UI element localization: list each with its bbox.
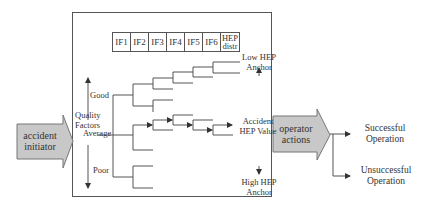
accident-initiator-line2: initiator: [17, 141, 63, 152]
failure-line2: Operation: [350, 176, 422, 187]
high-hep-anchor-label: High HEP Anchor: [238, 178, 280, 197]
hep-distr-cell: HEP distr: [220, 32, 240, 52]
if-cell-2: IF2: [130, 32, 149, 52]
operator-actions-label: operator actions: [274, 123, 318, 145]
operator-actions-line2: actions: [274, 134, 318, 145]
success-line1: Successful: [352, 123, 418, 134]
if-cell-1: IF1: [112, 32, 131, 52]
unsuccessful-operation-label: Unsuccessful Operation: [350, 165, 422, 187]
diagram-canvas: accident initiator operator actions IF1 …: [0, 0, 424, 209]
accident-initiator-label: accident initiator: [17, 130, 63, 152]
low-hep-anchor-label: Low HEP Anchor: [238, 53, 280, 72]
if-cell-6: IF6: [202, 32, 221, 52]
influence-factor-row: IF1 IF2 IF3 IF4 IF5 IF6 HEP distr: [112, 32, 240, 52]
low-anchor-line2: Anchor: [238, 63, 280, 73]
operator-actions-line1: operator: [274, 123, 318, 134]
hep-value-line2: HEP Value: [236, 127, 280, 137]
if-cell-4: IF4: [166, 32, 185, 52]
high-anchor-line2: Anchor: [238, 188, 280, 198]
accident-hep-value-label: Accident HEP Value: [236, 117, 280, 136]
successful-operation-label: Successful Operation: [352, 123, 418, 145]
if-cell-3: IF3: [148, 32, 167, 52]
quality-poor-label: Poor: [93, 166, 109, 176]
if-cell-5: IF5: [184, 32, 203, 52]
hep-distr-line2: distr: [222, 42, 237, 50]
quality-good-label: Good: [90, 91, 109, 101]
accident-initiator-line1: accident: [17, 130, 63, 141]
failure-line1: Unsuccessful: [350, 165, 422, 176]
success-line2: Operation: [352, 134, 418, 145]
quality-average-label: Average: [83, 129, 111, 139]
